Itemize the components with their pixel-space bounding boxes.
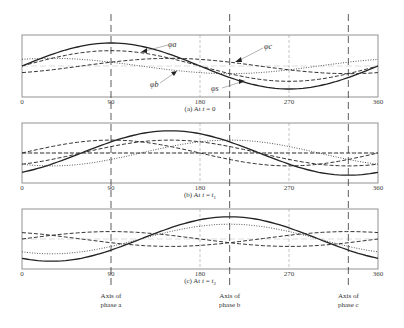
x-tick-label: 0 xyxy=(20,270,24,278)
x-tick-label: 270 xyxy=(284,270,295,278)
panel-caption: (a) At t = 0 xyxy=(185,105,216,113)
panel-caption: (c) At t = t2 xyxy=(184,277,216,286)
axis-label-line2: phase b xyxy=(219,301,241,309)
phase-axes: Axis ofphase aAxis ofphase bAxis ofphase… xyxy=(101,14,360,309)
axis-label-line2: phase a xyxy=(101,301,123,309)
panels: 090180270360(a) At t = 0090180270360(b) … xyxy=(20,35,384,286)
axis-label-line1: Axis of xyxy=(338,292,359,300)
three-phase-flux-diagram: 090180270360(a) At t = 0090180270360(b) … xyxy=(0,0,404,328)
panel-caption: (b) At t = t1 xyxy=(184,191,217,200)
phi-s-label: φs xyxy=(211,84,219,93)
x-tick-label: 0 xyxy=(20,184,24,192)
panel-a: 090180270360(a) At t = 0 xyxy=(20,35,384,113)
flux-label-phi-c: φc xyxy=(235,42,272,62)
x-tick-label: 270 xyxy=(284,98,295,106)
panel-c: 090180270360(c) At t = t2 xyxy=(20,209,384,286)
x-tick-label: 270 xyxy=(284,184,295,192)
phi-a-label: φa xyxy=(168,40,176,49)
axis-label-line1: Axis of xyxy=(101,292,122,300)
panel-b: 090180270360(b) At t = t1 xyxy=(20,123,384,200)
x-tick-label: 360 xyxy=(373,270,384,278)
phi-b-label: φb xyxy=(150,80,158,89)
x-tick-label: 0 xyxy=(20,98,24,106)
axis-phase-c: Axis ofphase c xyxy=(338,14,359,309)
x-tick-label: 360 xyxy=(373,98,384,106)
x-tick-label: 360 xyxy=(373,184,384,192)
axis-label-line1: Axis of xyxy=(219,292,240,300)
axis-phase-b: Axis ofphase b xyxy=(219,14,241,309)
axis-phase-a: Axis ofphase a xyxy=(101,14,123,309)
axis-label-line2: phase c xyxy=(338,301,359,309)
flux-label-phi-s: φs xyxy=(211,79,245,93)
flux-label-phi-b: φb xyxy=(150,71,177,89)
phi-c-label: φc xyxy=(264,42,272,51)
